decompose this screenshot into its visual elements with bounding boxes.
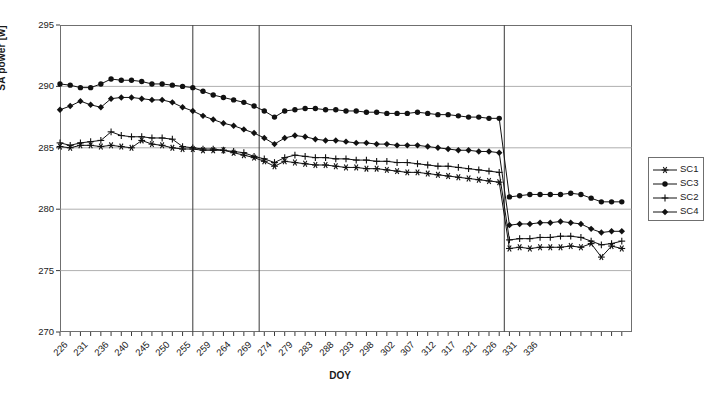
legend-label: SC2	[680, 191, 698, 202]
legend-item-sc3[interactable]: SC3	[652, 175, 698, 189]
legend-marker-circle-icon	[652, 176, 678, 188]
y-axis-title: SA power [w]	[0, 0, 7, 118]
legend-label: SC1	[680, 163, 698, 174]
legend-marker-diamond-icon	[652, 204, 678, 216]
chart-legend: SC1SC3SC2SC4	[648, 157, 704, 221]
legend-item-sc4[interactable]: SC4	[652, 203, 698, 217]
x-axis-title: DOY	[280, 370, 400, 381]
x-axis-tick-labels: 2262312362402452502552592642692742792832…	[0, 0, 713, 399]
legend-item-sc2[interactable]: SC2	[652, 189, 698, 203]
legend-item-sc1[interactable]: SC1	[652, 161, 698, 175]
legend-label: SC4	[680, 205, 698, 216]
legend-marker-asterisk-icon	[652, 162, 678, 174]
legend-label: SC3	[680, 177, 698, 188]
chart-root: 270275280285290295 226231236240245250255…	[0, 0, 713, 399]
legend-marker-plus-icon	[652, 190, 678, 202]
